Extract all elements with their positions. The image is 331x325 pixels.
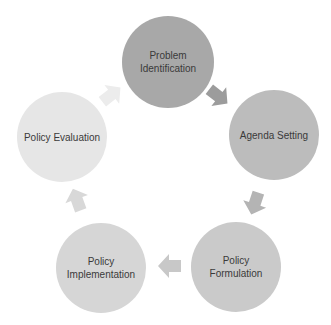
node-label-line: Problem xyxy=(140,49,196,62)
arrow-icon xyxy=(62,185,92,215)
node-agenda-setting: Agenda Setting xyxy=(229,90,319,180)
node-label-line: Implementation xyxy=(67,268,135,281)
node-label-line: Policy xyxy=(67,255,135,268)
node-policy-formulation: Policy Formulation xyxy=(191,222,281,312)
node-policy-evaluation: Policy Evaluation xyxy=(17,92,107,182)
node-label-line: Formulation xyxy=(210,267,263,280)
policy-cycle-diagram: Problem Identification Agenda Setting Po… xyxy=(0,0,331,325)
arrow-icon xyxy=(240,189,270,218)
node-label-line: Agenda Setting xyxy=(240,129,308,142)
node-problem-identification: Problem Identification xyxy=(122,16,214,108)
arrow-icon xyxy=(158,254,181,278)
arrow-icon xyxy=(95,78,128,111)
node-label-line: Policy Evaluation xyxy=(24,131,100,144)
node-label-line: Policy xyxy=(210,254,263,267)
node-policy-implementation: Policy Implementation xyxy=(56,223,146,313)
node-label-line: Identification xyxy=(140,62,196,75)
